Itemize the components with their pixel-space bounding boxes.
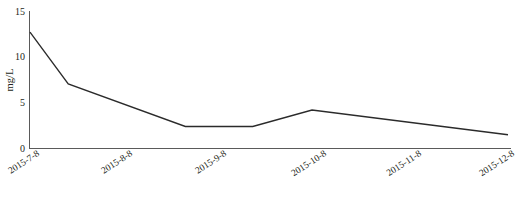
- y-tick-label-5: 5: [20, 97, 25, 108]
- series-line-mgl: [30, 32, 508, 135]
- y-tick-label-0: 0: [20, 143, 25, 154]
- figure-caption: [6, 191, 306, 200]
- y-tick-label-15: 15: [15, 6, 25, 17]
- chart-canvas: 15 10 5 0 mg/L 2015-7-8 2015-8-8 2015-9-…: [0, 0, 516, 200]
- x-tick-label-5: 2015-12-8: [477, 148, 516, 178]
- x-tick-label-1: 2015-8-8: [99, 148, 134, 175]
- y-tick-label-10: 10: [15, 51, 25, 62]
- line-chart-figure: 15 10 5 0 mg/L 2015-7-8 2015-8-8 2015-9-…: [0, 0, 516, 200]
- x-tick-label-3: 2015-10-8: [289, 148, 328, 178]
- x-tick-label-4: 2015-11-8: [385, 148, 424, 178]
- x-tick-label-2: 2015-9-8: [193, 148, 228, 175]
- y-axis-title: mg/L: [4, 69, 15, 92]
